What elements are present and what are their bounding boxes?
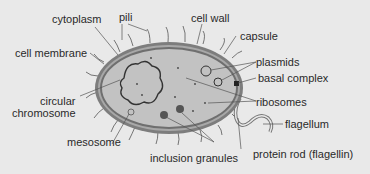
- label-protein-rod: protein rod (flagellin): [253, 148, 353, 160]
- label-circular: circular: [40, 95, 75, 107]
- label-mesosome: mesosome: [67, 136, 121, 148]
- inclusion-granule-2: [176, 105, 184, 113]
- label-ribosomes: ribosomes: [256, 96, 307, 108]
- label-pili: pili: [119, 11, 132, 23]
- label-basal-complex: basal complex: [258, 72, 328, 84]
- label-cytoplasm: cytoplasm: [52, 13, 102, 25]
- label-cell-wall: cell wall: [191, 12, 230, 24]
- label-flagellum: flagellum: [285, 118, 329, 130]
- label-inclusion-granules: inclusion granules: [150, 152, 238, 164]
- label-plasmids: plasmids: [256, 56, 299, 68]
- label-chromosome: chromosome: [12, 107, 76, 119]
- label-cell-membrane: cell membrane: [15, 47, 87, 59]
- label-capsule: capsule: [240, 30, 278, 42]
- basal-complex-shape: [234, 81, 239, 86]
